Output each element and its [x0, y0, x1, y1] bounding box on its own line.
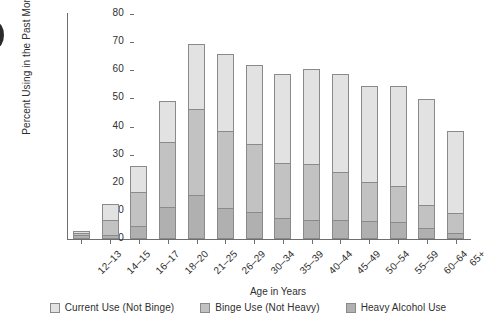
- bar-segment-binge: [418, 205, 435, 230]
- y-axis-tick-mark: [130, 239, 134, 240]
- bar-stack: [447, 131, 464, 239]
- x-axis-tick-label: 50–54: [384, 248, 412, 276]
- bar-segment-current: [390, 86, 407, 187]
- bar-segment-current: [274, 74, 291, 165]
- bar-stack: [188, 44, 205, 239]
- x-axis-tick-mark: [369, 240, 370, 244]
- bar-group[interactable]: [332, 14, 349, 239]
- bar-segment-current: [418, 99, 435, 206]
- x-axis-tick-mark: [283, 240, 284, 244]
- x-axis-tick-mark: [225, 240, 226, 244]
- bar-group[interactable]: [246, 14, 263, 239]
- legend-item-current[interactable]: Current Use (Not Binge): [50, 302, 175, 313]
- bar-segment-current: [130, 166, 147, 192]
- bar-stack: [73, 231, 90, 239]
- x-axis-tick-mark: [456, 240, 457, 244]
- bar-segment-heavy: [102, 235, 119, 239]
- x-axis-tick-label: 14–15: [125, 248, 153, 276]
- x-axis-tick-label: 21–25: [211, 248, 239, 276]
- bar-group[interactable]: [390, 14, 407, 239]
- bar-group[interactable]: [102, 14, 119, 239]
- bar-stack: [246, 65, 263, 239]
- bar-segment-heavy: [246, 212, 263, 239]
- bar-segment-binge: [274, 163, 291, 219]
- bar-group[interactable]: [361, 14, 378, 239]
- bar-segment-current: [159, 101, 176, 143]
- bar-segment-binge: [130, 192, 147, 227]
- legend-item-heavy[interactable]: Heavy Alcohol Use: [346, 302, 447, 313]
- legend-label: Current Use (Not Binge): [65, 302, 175, 313]
- x-axis-tick-label: 45–49: [355, 248, 383, 276]
- x-axis-tick-mark: [168, 240, 169, 244]
- x-axis-tick-label: 55–59: [412, 248, 440, 276]
- legend-label: Binge Use (Not Heavy): [215, 302, 319, 313]
- x-axis-tick-mark: [81, 240, 82, 244]
- bar-segment-heavy: [73, 235, 90, 239]
- y-axis-title: Percent Using in the Past Month: [21, 0, 32, 162]
- bar-segment-heavy: [217, 208, 234, 239]
- legend-swatch-current: [50, 303, 60, 313]
- legend-swatch-heavy: [346, 303, 356, 313]
- legend-label: Heavy Alcohol Use: [361, 302, 447, 313]
- bar-segment-current: [332, 74, 349, 174]
- bar-stack: [303, 69, 320, 239]
- x-axis-tick-mark: [139, 240, 140, 244]
- bar-segment-heavy: [418, 228, 435, 239]
- x-axis-tick-mark: [110, 240, 111, 244]
- bar-segment-heavy: [332, 220, 349, 239]
- bar-segment-heavy: [130, 226, 147, 239]
- bar-group[interactable]: [217, 14, 234, 239]
- bar-segment-current: [217, 54, 234, 132]
- x-axis-tick-label: 35–39: [297, 248, 325, 276]
- x-axis-tick-mark: [340, 240, 341, 244]
- bar-segment-current: [102, 204, 119, 221]
- x-axis-tick-label: 65+: [467, 248, 487, 268]
- bar-group[interactable]: [159, 14, 176, 239]
- figure-bullet-marker: [0, 22, 4, 48]
- x-axis-line: [67, 239, 471, 240]
- bar-group[interactable]: [303, 14, 320, 239]
- bar-segment-current: [361, 86, 378, 183]
- bar-segment-current: [303, 69, 320, 164]
- bar-group[interactable]: [130, 14, 147, 239]
- bar-stack: [390, 86, 407, 239]
- bar-group[interactable]: [274, 14, 291, 239]
- x-axis-tick-label: 18–20: [182, 248, 210, 276]
- bar-segment-binge: [361, 182, 378, 222]
- bar-segment-binge: [303, 164, 320, 221]
- x-axis-tick-mark: [427, 240, 428, 244]
- x-axis-tick-label: 30–34: [269, 248, 297, 276]
- x-axis-tick-mark: [312, 240, 313, 244]
- bar-segment-binge: [102, 220, 119, 236]
- legend-swatch-binge: [200, 303, 210, 313]
- bar-stack: [159, 101, 176, 239]
- bar-stack: [130, 166, 147, 239]
- bar-segment-binge: [447, 213, 464, 234]
- bar-segment-binge: [390, 186, 407, 223]
- chart-figure: Percent Using in the Past Month 01020304…: [0, 0, 496, 326]
- legend-item-binge[interactable]: Binge Use (Not Heavy): [200, 302, 319, 313]
- bar-segment-binge: [188, 109, 205, 196]
- bar-group[interactable]: [188, 14, 205, 239]
- x-axis-tick-mark: [254, 240, 255, 244]
- bar-stack: [274, 74, 291, 239]
- x-axis-tick-label: 26–29: [240, 248, 268, 276]
- x-axis-tick-label: 12–13: [96, 248, 124, 276]
- bar-group[interactable]: [418, 14, 435, 239]
- bar-segment-heavy: [274, 218, 291, 239]
- x-axis-tick-label: 16–17: [153, 248, 181, 276]
- bar-stack: [361, 86, 378, 239]
- x-axis-tick-mark: [398, 240, 399, 244]
- bar-group[interactable]: [73, 14, 90, 239]
- chart-legend: Current Use (Not Binge)Binge Use (Not He…: [0, 302, 496, 313]
- bar-segment-binge: [246, 144, 263, 213]
- bar-segment-heavy: [447, 233, 464, 239]
- bar-segment-heavy: [303, 220, 320, 239]
- bar-group[interactable]: [447, 14, 464, 239]
- y-axis-tick-label: 0: [118, 232, 124, 243]
- bar-segment-binge: [332, 172, 349, 221]
- bar-segment-heavy: [159, 207, 176, 239]
- x-axis-tick-label: 60–64: [441, 248, 469, 276]
- bar-stack: [217, 54, 234, 239]
- x-axis-tick-mark: [197, 240, 198, 244]
